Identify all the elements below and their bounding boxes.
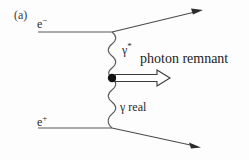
- real-photon-label: γ real: [120, 101, 146, 113]
- real-photon-wavy-line: [108, 78, 116, 128]
- panel-label: (a): [14, 9, 27, 21]
- virtual-photon-wavy-line: [108, 32, 116, 78]
- outgoing-positron-line: [112, 128, 195, 146]
- photon-remnant-block-arrow: [115, 70, 170, 86]
- electron-label: e−: [37, 16, 47, 30]
- outgoing-electron-arrowhead: [191, 9, 203, 15]
- virtual-photon-star: *: [127, 41, 132, 51]
- outgoing-positron-arrowhead: [189, 143, 201, 149]
- positron-label: e+: [37, 114, 47, 128]
- positron-charge-superscript: +: [42, 113, 47, 123]
- electron-charge-superscript: −: [42, 15, 47, 25]
- feynman-diagram-figure: (a) e− e+ γ* γ real photon remnant: [0, 0, 249, 160]
- virtual-photon-label: γ*: [122, 42, 132, 56]
- outgoing-electron-line: [112, 12, 197, 33]
- interaction-vertex-dot: [108, 74, 116, 82]
- photon-remnant-label: photon remnant: [140, 52, 228, 66]
